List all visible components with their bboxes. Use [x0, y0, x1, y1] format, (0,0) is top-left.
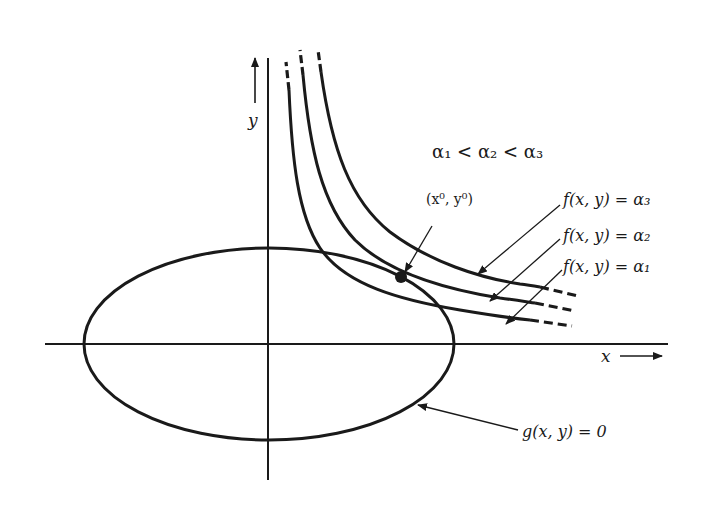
level-curve-alpha3-dash-top [318, 50, 321, 72]
ordering-label: α₁ < α₂ < α₃ [432, 141, 543, 162]
x-axis-label: x [601, 346, 611, 366]
alpha2-leader-arrow [490, 239, 560, 301]
alpha3-leader-arrow [478, 205, 560, 274]
constraint-label: g(x, y) = 0 [522, 422, 607, 441]
point-label: (x⁰, y⁰) [426, 191, 473, 207]
alpha1-leader-arrow [506, 270, 562, 324]
level-curve-alpha2-dash-top [300, 50, 303, 75]
level-curve-alpha2-dash-right [535, 303, 575, 311]
lagrange-diagram: y x α₁ < α₂ < α₃ (x⁰, y⁰) f(x, y) = α₃ f… [0, 0, 702, 505]
tangency-point [395, 271, 407, 283]
curve-label-alpha2: f(x, y) = α₂ [562, 226, 650, 245]
level-curve-alpha1-dash-right [530, 320, 572, 326]
constraint-leader-arrow [418, 405, 518, 430]
level-curve-alpha3 [321, 72, 540, 287]
level-curve-alpha1-dash-top [286, 62, 289, 90]
point-leader-arrow [405, 226, 432, 272]
level-curve-alpha1 [289, 90, 530, 320]
curve-label-alpha1: f(x, y) = α₁ [562, 257, 650, 276]
curve-label-alpha3: f(x, y) = α₃ [562, 190, 650, 209]
level-curve-alpha3-dash-right [540, 287, 578, 296]
y-axis-label: y [247, 110, 258, 130]
